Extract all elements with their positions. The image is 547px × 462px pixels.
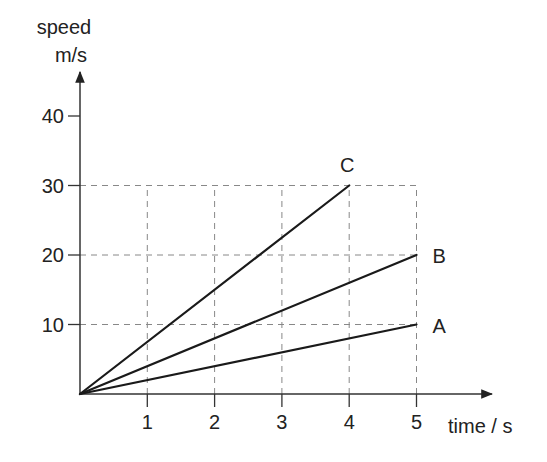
series-line-A <box>80 325 417 395</box>
y-tick-label-10: 10 <box>42 314 64 336</box>
y-tick-label-20: 20 <box>42 244 64 266</box>
x-axis-title: time / s <box>448 415 512 437</box>
speed-time-chart: 1020304012345speedm/stime / sABC <box>0 0 547 462</box>
x-tick-label-5: 5 <box>411 411 422 433</box>
axis-labels: 1020304012345speedm/stime / sABC <box>37 16 513 437</box>
y-tick-label-30: 30 <box>42 175 64 197</box>
x-tick-label-3: 3 <box>276 411 287 433</box>
series-label-A: A <box>433 315 447 337</box>
y-axis-title-speed: speed <box>37 16 92 38</box>
x-tick-label-2: 2 <box>209 411 220 433</box>
grid-lines <box>80 186 417 395</box>
x-tick-label-1: 1 <box>142 411 153 433</box>
data-series <box>80 186 417 395</box>
x-tick-label-4: 4 <box>344 411 355 433</box>
series-label-C: C <box>340 154 354 176</box>
series-label-B: B <box>433 245 446 267</box>
y-tick-label-40: 40 <box>42 105 64 127</box>
y-axis-title-units: m/s <box>55 44 87 66</box>
